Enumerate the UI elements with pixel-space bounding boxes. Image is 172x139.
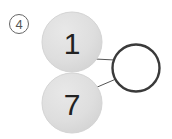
diagram-canvas: 4 1 7 — [0, 0, 172, 139]
node-1-label: 1 — [64, 27, 81, 60]
node-7[interactable]: 7 — [42, 73, 102, 133]
node-1[interactable]: 1 — [42, 12, 102, 72]
node-empty[interactable] — [113, 45, 160, 92]
node-empty-circle-icon — [113, 45, 160, 92]
step-badge: 4 — [10, 15, 29, 34]
node-link-diagram: 4 1 7 — [0, 0, 172, 139]
edge-node7-to-empty — [95, 79, 116, 88]
edge-node1-to-empty — [95, 59, 115, 60]
step-badge-label: 4 — [15, 17, 22, 32]
node-7-label: 7 — [64, 88, 81, 121]
